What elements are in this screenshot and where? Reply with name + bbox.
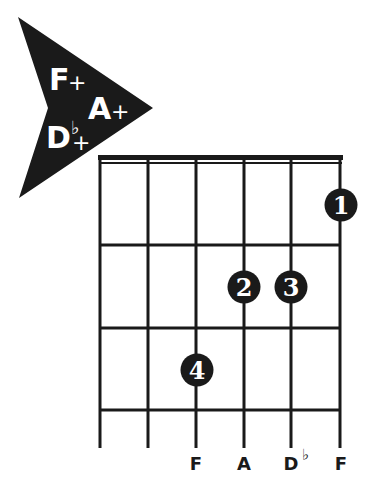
chord-root: D (46, 120, 71, 155)
finger-dot-4: 4 (181, 354, 214, 387)
finger-dot-3: 3 (275, 271, 308, 304)
fretboard (98, 155, 343, 448)
string-label-5-flat: ♭ (302, 446, 309, 464)
chord-quality: + (72, 130, 90, 155)
chord-badge: F + A + D ♭ + (18, 17, 153, 198)
string-label-6: F (335, 453, 347, 474)
string-label-5: D (284, 453, 299, 474)
arrow-badge-shape (18, 17, 153, 198)
finger-dot-2: 2 (228, 271, 261, 304)
string-label-4: A (237, 453, 251, 474)
chord-quality: + (68, 70, 86, 95)
chord-diagram: F + A + D ♭ + 1 2 (0, 0, 366, 480)
finger-dot-1: 1 (325, 189, 358, 222)
string-labels: F A D ♭ F (190, 446, 347, 474)
chord-root: F (49, 62, 70, 97)
finger-number: 4 (189, 356, 206, 385)
chord-root: A (88, 91, 112, 126)
chord-quality: + (111, 99, 129, 124)
nut (98, 155, 343, 160)
finger-number: 2 (236, 273, 253, 302)
finger-number: 3 (283, 273, 300, 302)
string-label-3: F (190, 453, 202, 474)
finger-number: 1 (333, 191, 350, 220)
